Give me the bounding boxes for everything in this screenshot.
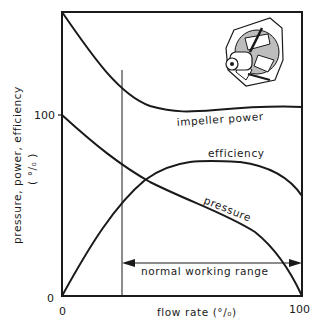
y-tick-label-0: 0	[47, 292, 54, 305]
fan-illustration-icon	[226, 18, 283, 86]
arrow-right-head-icon	[289, 259, 302, 267]
y-axis-label: pressure, power, efficiency	[11, 86, 23, 244]
y-axis-unit: ( °/₀ )	[26, 153, 38, 185]
x-tick-label-0: 0	[59, 305, 66, 318]
arrow-left-head-icon	[122, 259, 135, 267]
x-tick-label-100: 100	[289, 303, 310, 316]
y-tick-label-100: 100	[34, 109, 55, 122]
impeller-power-label: impeller power	[176, 110, 264, 128]
performance-chart: impeller power efficiency pressure norma…	[0, 0, 326, 326]
x-axis-label: flow rate (°/₀)	[157, 306, 237, 318]
working-range-label: normal working range	[141, 265, 269, 277]
efficiency-label: efficiency	[208, 147, 265, 159]
